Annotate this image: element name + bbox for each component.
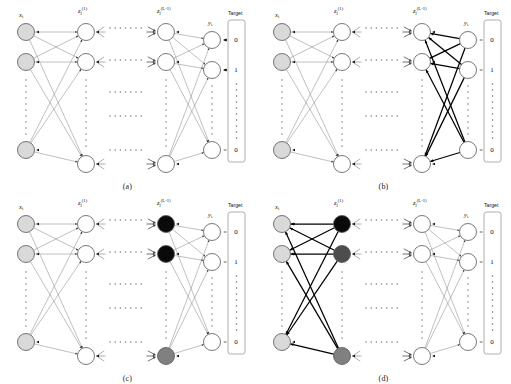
hiddenL1-column-ellipsis-dot	[421, 307, 423, 309]
hidden1-column-ellipsis-dot	[341, 277, 343, 279]
hiddenL1-node-1	[158, 24, 175, 41]
output-node-3	[460, 142, 477, 159]
target-ellipsis-dot	[236, 101, 238, 103]
hidden1-layer-label: zj(1)	[78, 199, 87, 208]
stub-arrowhead-icon	[153, 355, 155, 357]
hiddenL1-column-ellipsis-dot	[165, 283, 167, 285]
output-stub	[353, 254, 361, 259]
hiddenL1-column-ellipsis-dot	[165, 295, 167, 297]
horizontal-ellipsis-dot	[376, 219, 378, 221]
panel-c-canvas	[0, 192, 255, 384]
output-stub	[353, 351, 361, 356]
horizontal-ellipsis-dot	[130, 341, 132, 343]
target-ellipsis-dot	[492, 131, 494, 133]
hidden1-column-ellipsis-dot	[341, 127, 343, 129]
output-stub	[97, 356, 105, 361]
target-ellipsis-dot	[492, 281, 494, 283]
output-column-ellipsis-dot	[211, 307, 213, 309]
target-ellipsis-dot	[492, 293, 494, 295]
hidden1-node-1	[78, 216, 95, 233]
output-column-ellipsis-dot	[467, 307, 469, 309]
hiddenL1-node-1	[414, 216, 431, 233]
hiddenL1-column-ellipsis-dot	[421, 133, 423, 135]
horizontal-ellipsis-dot	[376, 341, 378, 343]
hiddenL1-column-ellipsis-dot	[421, 79, 423, 81]
hiddenL1-column-ellipsis-dot	[165, 103, 167, 105]
edge-input-to-hidden1	[286, 69, 337, 156]
hiddenL1-column-ellipsis-dot	[421, 109, 423, 111]
hiddenL1-column-ellipsis-dot	[165, 271, 167, 273]
hidden1-node-2	[78, 246, 95, 263]
input-layer-label: xi	[275, 12, 279, 20]
horizontal-ellipsis-dot	[396, 251, 398, 253]
output-stub	[97, 219, 105, 224]
output-node-2	[460, 254, 477, 271]
hiddenL1-node-2	[158, 54, 175, 71]
output-column-ellipsis-dot	[467, 301, 469, 303]
horizontal-ellipsis-dot	[365, 115, 367, 117]
edge-hiddenL1-to-output	[426, 262, 464, 335]
horizontal-ellipsis-dot	[140, 307, 142, 309]
hiddenL1-column-ellipsis-dot	[165, 331, 167, 333]
horizontal-ellipsis-dot	[125, 283, 127, 285]
horizontal-ellipsis-dot	[135, 219, 137, 221]
input-column-ellipsis-dot	[25, 325, 27, 327]
horizontal-ellipsis-dot	[135, 91, 137, 93]
panel-caption-b: (b)	[256, 182, 511, 191]
output-layer-label: yi	[464, 20, 468, 28]
target-ellipsis-dot	[492, 119, 494, 121]
hidden1-layer-label: zj(1)	[78, 7, 87, 16]
target-ellipsis-dot	[236, 137, 238, 139]
output-layer-label: yi	[208, 20, 212, 28]
horizontal-ellipsis-dot	[381, 341, 383, 343]
target-value-2: 1	[486, 258, 498, 266]
target-ellipsis-dot	[236, 95, 238, 97]
input-column-ellipsis-dot	[25, 301, 27, 303]
output-stub	[353, 356, 361, 361]
horizontal-ellipsis-dot	[396, 59, 398, 61]
horizontal-ellipsis-dot	[120, 91, 122, 93]
hidden1-layer-label: zj(1)	[334, 199, 343, 208]
hidden1-column-ellipsis-dot	[341, 79, 343, 81]
horizontal-ellipsis-dot	[109, 341, 111, 343]
horizontal-ellipsis-dot	[130, 219, 132, 221]
edge-hiddenL1-to-output	[174, 44, 205, 59]
hiddenL1-column-ellipsis-dot	[165, 97, 167, 99]
output-stub	[353, 27, 361, 32]
horizontal-ellipsis-dot	[386, 27, 388, 29]
output-stub	[97, 351, 105, 356]
input-column-ellipsis-dot	[25, 85, 27, 87]
target-ellipsis-dot	[236, 305, 238, 307]
target-ellipsis-dot	[236, 281, 238, 283]
output-column-ellipsis-dot	[467, 91, 469, 93]
input-column-ellipsis-dot	[281, 103, 283, 105]
edge-input-to-hidden1	[286, 40, 338, 143]
horizontal-ellipsis-dot	[120, 149, 122, 151]
edge-hiddenL1-to-output	[174, 63, 203, 68]
edge-input-to-hidden1	[286, 40, 339, 157]
hidden1-column-ellipsis-dot	[341, 331, 343, 333]
output-column-ellipsis-dot	[211, 289, 213, 291]
output-stub	[97, 249, 105, 254]
hidden1-node-1	[334, 24, 351, 41]
hiddenL1-node-3	[158, 156, 175, 173]
hidden1-column-ellipsis-dot	[85, 331, 87, 333]
horizontal-ellipsis-dot	[125, 59, 127, 61]
output-column-ellipsis-dot	[467, 289, 469, 291]
edge-input-to-hidden1	[286, 261, 337, 348]
panel-b: xizj(1)zj(L-1)yiTarget010(b)	[256, 0, 511, 192]
output-stub	[353, 224, 361, 229]
input-column-ellipsis-dot	[281, 313, 283, 315]
hiddenL1-column-ellipsis-dot	[421, 295, 423, 297]
input-column-ellipsis-dot	[25, 319, 27, 321]
input-column-ellipsis-dot	[25, 103, 27, 105]
hidden1-column-ellipsis-dot	[341, 121, 343, 123]
horizontal-ellipsis-dot	[396, 219, 398, 221]
horizontal-ellipsis-dot	[140, 115, 142, 117]
edge-input-to-hidden1	[30, 232, 82, 335]
target-arrowhead-icon	[479, 341, 482, 343]
edge-hiddenL1-to-output	[174, 225, 203, 230]
hidden1-column-ellipsis-dot	[341, 295, 343, 297]
horizontal-ellipsis-dot	[370, 115, 372, 117]
horizontal-ellipsis-dot	[140, 251, 142, 253]
